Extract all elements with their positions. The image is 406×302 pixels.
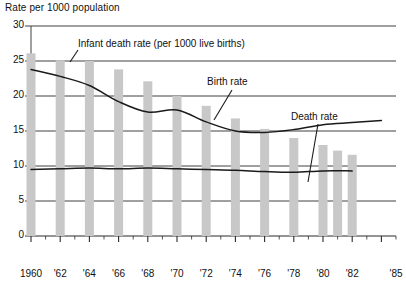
x-tick-label-1970: '70 <box>167 268 187 279</box>
leader-birth-rate <box>214 90 232 120</box>
birth-rate-label: Birth rate <box>207 76 248 87</box>
bar-'68 <box>143 81 152 236</box>
bar-'78 <box>289 138 298 236</box>
leader-death-rate <box>308 124 318 182</box>
bar-'85 <box>348 155 357 236</box>
infant-death-rate-label: Infant death rate (per 1000 live births) <box>78 38 245 49</box>
death-rate-label: Death rate <box>291 111 338 122</box>
x-tick-label-1978: '78 <box>284 268 304 279</box>
y-tick-label-5: 5 <box>2 194 24 205</box>
x-tick-label-1985: '85 <box>386 268 406 279</box>
x-tick-label-1962: '62 <box>50 268 70 279</box>
bar-'70 <box>173 96 182 236</box>
line-death-rate <box>31 168 352 172</box>
x-tick-label-1972: '72 <box>196 268 216 279</box>
leader-infant-death-rate <box>70 50 78 62</box>
x-tick-label-1968: '68 <box>138 268 158 279</box>
x-tick-label-1964: '64 <box>79 268 99 279</box>
bar-'62 <box>56 60 65 236</box>
x-tick-label-1974: '74 <box>225 268 245 279</box>
bar-'76 <box>260 129 269 236</box>
bar-'74 <box>231 118 240 236</box>
y-tick-label-30: 30 <box>2 19 24 30</box>
bar-'82 <box>333 151 342 236</box>
y-tick-label-10: 10 <box>2 159 24 170</box>
bar-'80 <box>319 145 328 236</box>
x-tick-label-1966: '66 <box>109 268 129 279</box>
bar-'66 <box>114 69 123 236</box>
x-tick-label-1976: '76 <box>255 268 275 279</box>
x-tick-label-1960: 1960 <box>16 268 46 279</box>
y-tick-label-0: 0 <box>2 229 24 240</box>
x-tick-label-1980: '80 <box>313 268 333 279</box>
y-tick-label-15: 15 <box>2 124 24 135</box>
y-tick-label-20: 20 <box>2 89 24 100</box>
x-tick-label-1982: '82 <box>342 268 362 279</box>
y-tick-label-25: 25 <box>2 54 24 65</box>
bar-'72 <box>202 106 211 236</box>
bar-1960 <box>27 53 36 236</box>
